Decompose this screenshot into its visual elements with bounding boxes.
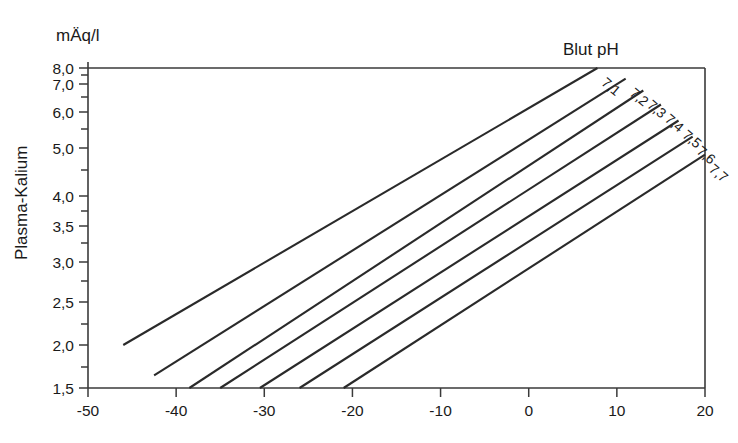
y-tick-label: 3,5: [52, 218, 74, 235]
y-axis-tick-labels: 1,52,02,53,03,54,05,06,07,08,0: [52, 60, 74, 397]
y-tick-label: 2,5: [52, 294, 74, 311]
x-tick-label: 20: [696, 402, 714, 419]
y-tick-label: 4,0: [52, 188, 74, 205]
y-tick-label: 7,0: [52, 76, 74, 93]
y-tick-label: 5,0: [52, 140, 74, 157]
y-axis-title: Plasma-Kalium: [12, 146, 31, 260]
y-tick-label: 6,0: [52, 104, 74, 121]
x-tick-label: -10: [429, 402, 452, 419]
plot-title: Blut pH: [563, 40, 619, 59]
y-tick-label: 2,0: [52, 337, 74, 354]
x-tick-label: 10: [608, 402, 626, 419]
x-tick-label: -20: [341, 402, 364, 419]
x-tick-label: -30: [253, 402, 276, 419]
chart-background: [0, 0, 738, 443]
y-tick-label: 3,0: [52, 254, 74, 271]
x-tick-label: 0: [524, 402, 533, 419]
y-tick-label: 1,5: [52, 380, 74, 397]
chart-figure: mÄq/l Plasma-Kalium Blut pH 1,52,02,53,0…: [0, 0, 738, 443]
y-axis-unit-label: mÄq/l: [56, 26, 99, 45]
x-tick-label: -40: [165, 402, 188, 419]
chart-svg: mÄq/l Plasma-Kalium Blut pH 1,52,02,53,0…: [0, 0, 738, 443]
y-tick-label: 8,0: [52, 60, 74, 77]
x-tick-label: -50: [77, 402, 100, 419]
